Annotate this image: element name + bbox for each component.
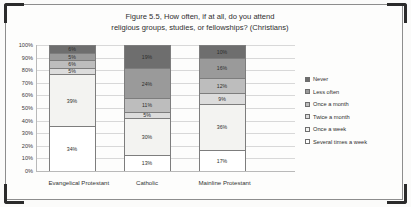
bar-segment[interactable]: 13% <box>124 155 171 171</box>
bar-segment[interactable]: 6% <box>49 45 96 53</box>
y-axis-tick-label: 50% <box>22 105 33 111</box>
stacked-bar[interactable]: 10%16%12%9%36%17%Mainline Protestant <box>199 45 246 171</box>
bar-segment-value-label: 36% <box>217 124 227 130</box>
bar-segment-value-label: 9% <box>218 96 226 102</box>
y-axis-tick-label: 0% <box>25 168 33 174</box>
bar-segment-value-label: 12% <box>217 83 227 89</box>
bar-segment[interactable]: 39% <box>49 74 96 126</box>
x-axis-category-label: Evangelical Protestant <box>49 179 96 186</box>
legend-item-label: Once a month <box>313 101 349 107</box>
bar-segment[interactable]: 36% <box>199 104 246 149</box>
legend-swatch-icon <box>305 114 310 119</box>
legend-swatch-icon <box>305 127 310 132</box>
scan-corner-bottom-right <box>387 184 407 204</box>
legend-item[interactable]: Once a week <box>305 126 367 132</box>
bar-segment-value-label: 39% <box>67 98 77 104</box>
legend-item-label: Several times a week <box>313 139 367 145</box>
bar-segment[interactable]: 34% <box>49 126 96 171</box>
y-axis-tick-label: 100% <box>19 42 33 48</box>
bar-segment[interactable]: 24% <box>124 68 171 98</box>
y-axis-tick-label: 10% <box>22 155 33 161</box>
bar-segment[interactable]: 11% <box>124 98 171 112</box>
y-axis-tick-label: 90% <box>22 55 33 61</box>
legend-item[interactable]: Never <box>305 76 367 82</box>
legend-item-label: Once a week <box>313 126 346 132</box>
bar-segment-value-label: 17% <box>217 158 227 164</box>
y-axis-tick-label: 60% <box>22 92 33 98</box>
x-axis-category-label: Mainline Protestant <box>199 179 246 186</box>
y-axis <box>36 45 37 171</box>
legend-swatch-icon <box>305 139 310 144</box>
bar-segment[interactable]: 16% <box>199 58 246 78</box>
bar-segment-value-label: 30% <box>142 134 152 140</box>
x-axis-category-label: Catholic <box>124 179 171 186</box>
bar-segment-value-label: 16% <box>217 65 227 71</box>
y-axis-tick-label: 30% <box>22 130 33 136</box>
y-axis-tick-label: 70% <box>22 80 33 86</box>
legend-item[interactable]: Once a month <box>305 101 367 107</box>
y-axis-tick-label: 80% <box>22 67 33 73</box>
legend-item[interactable]: Twice a month <box>305 114 367 120</box>
bar-segment-value-label: 13% <box>142 160 152 166</box>
bar-segment-value-label: 6% <box>68 46 76 52</box>
scan-corner-bottom-left <box>4 184 24 204</box>
legend-item[interactable]: Several times a week <box>305 139 367 145</box>
scan-corner-top-left <box>4 3 24 23</box>
stacked-bar[interactable]: 6%5%6%5%39%34%Evangelical Protestant <box>49 45 96 171</box>
bar-segment[interactable]: 5% <box>49 53 96 60</box>
scan-corner-top-right <box>387 3 407 23</box>
gridline <box>36 171 295 172</box>
bar-segment-value-label: 10% <box>217 49 227 55</box>
bar-segment[interactable]: 6% <box>49 60 96 68</box>
bar-segment-value-label: 24% <box>142 81 152 87</box>
bar-segment[interactable]: 30% <box>124 118 171 155</box>
chart-title-line-1: Figure 5.5, How often, if at all, do you… <box>40 11 360 22</box>
legend-swatch-icon <box>305 102 310 107</box>
bar-segment-value-label: 6% <box>68 61 76 67</box>
legend-item-label: Less often <box>313 89 339 95</box>
chart-title-line-2: religious groups, studies, or fellowship… <box>40 22 360 33</box>
legend-swatch-icon <box>305 89 310 94</box>
chart-legend: NeverLess oftenOnce a monthTwice a month… <box>305 76 367 145</box>
bar-segment-value-label: 19% <box>142 54 152 60</box>
chart-title: Figure 5.5, How often, if at all, do you… <box>40 11 360 33</box>
bar-segment[interactable]: 19% <box>124 45 171 68</box>
legend-item[interactable]: Less often <box>305 89 367 95</box>
y-axis-tick-label: 40% <box>22 118 33 124</box>
bar-segment[interactable]: 10% <box>199 45 246 58</box>
legend-swatch-icon <box>305 77 310 82</box>
legend-item-label: Never <box>313 76 328 82</box>
figure-page: Figure 5.5, How often, if at all, do you… <box>0 0 411 207</box>
legend-item-label: Twice a month <box>313 114 350 120</box>
bar-segment[interactable]: 17% <box>199 150 246 171</box>
bar-segment[interactable]: 9% <box>199 93 246 104</box>
y-axis-tick-label: 20% <box>22 143 33 149</box>
bar-segment[interactable]: 12% <box>199 78 246 93</box>
bar-segment[interactable]: 5% <box>49 68 96 75</box>
plot-area: 0%10%20%30%40%50%60%70%80%90%100% 6%5%6%… <box>36 45 295 171</box>
bar-segment-value-label: 11% <box>142 102 152 108</box>
stacked-bar[interactable]: 19%24%11%5%30%13%Catholic <box>124 45 171 171</box>
bar-segment-value-label: 34% <box>67 146 77 152</box>
